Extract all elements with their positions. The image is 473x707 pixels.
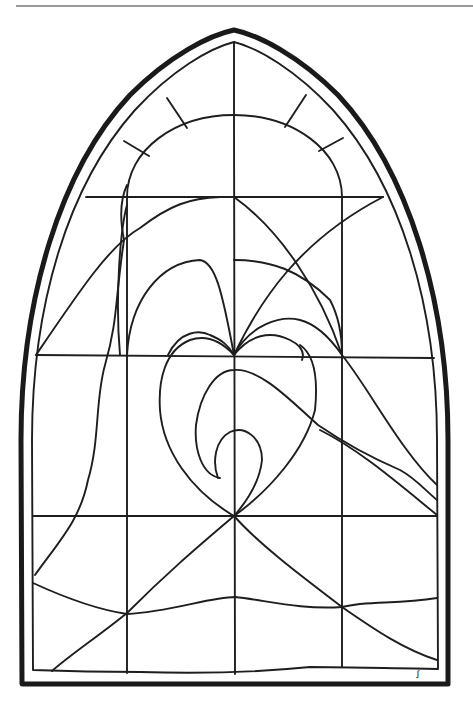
sweep-curve-left [36, 197, 220, 355]
left-upper-curve [118, 205, 127, 355]
arch-spoke-left-1 [167, 98, 187, 128]
bottom-diagonal-right [234, 516, 437, 660]
grid-v-2 [234, 115, 235, 674]
heart-outline [160, 338, 316, 516]
sweep-curve-right [234, 197, 383, 355]
bottom-diagonal-left [52, 516, 234, 671]
heart-lobe-left-outer [127, 260, 234, 355]
heart-inner-curl [215, 430, 262, 516]
right-diagonal-lower [320, 430, 437, 515]
arch-spoke-right-1 [285, 95, 306, 127]
heart-lobe-left-inner [168, 332, 234, 355]
artist-signature: ꭍ [416, 669, 420, 680]
arch-spoke-right-2 [319, 138, 343, 151]
arch-spoke-left-2 [124, 141, 149, 156]
fan-line-center [234, 197, 342, 355]
stained-glass-drawing: ꭍ [0, 0, 473, 707]
